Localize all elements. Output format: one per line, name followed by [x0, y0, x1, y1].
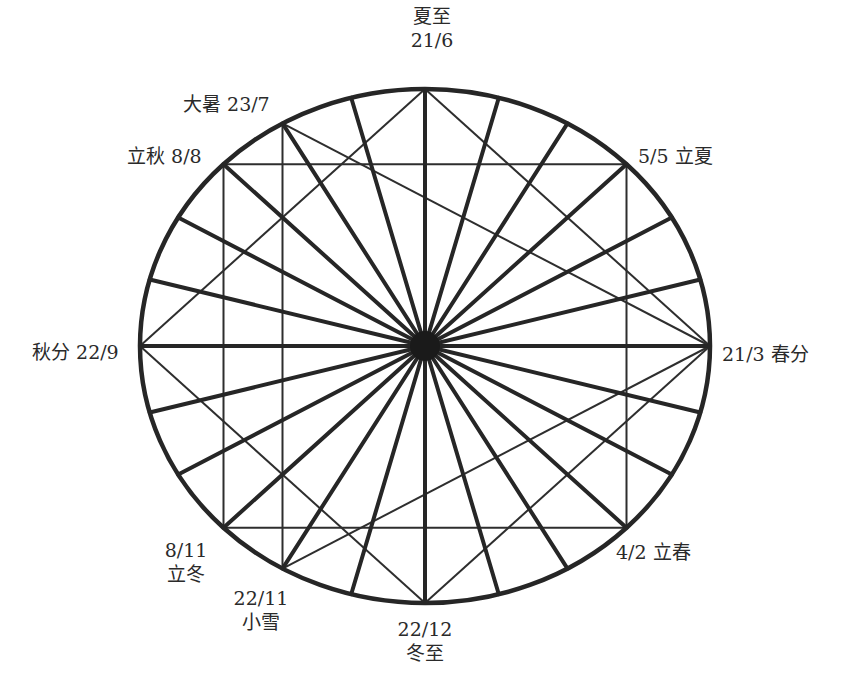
label-minor-snow: 22/11 小雪	[226, 586, 296, 634]
label-start-autumn: 立秋 8/8	[127, 144, 202, 168]
label-major-heat: 大暑 23/7	[183, 92, 270, 116]
radial-line	[425, 98, 499, 346]
winter-solstice-date: 22/12	[385, 617, 465, 641]
center-hub	[410, 331, 440, 361]
label-start-winter: 8/11 立冬	[156, 538, 216, 586]
radial-line	[351, 346, 425, 594]
solar-term-wheel	[0, 0, 843, 690]
minor-snow-name: 小雪	[226, 610, 296, 634]
radial-line	[351, 98, 425, 346]
radial-line	[425, 346, 499, 594]
minor-snow-date: 22/11	[226, 586, 296, 610]
summer-solstice-date: 21/6	[392, 28, 472, 52]
radial-line	[425, 280, 700, 347]
start-winter-date: 8/11	[156, 538, 216, 562]
label-start-summer: 5/5 立夏	[638, 144, 713, 168]
start-winter-name: 立冬	[156, 562, 216, 586]
label-spring-equinox: 21/3 春分	[722, 342, 809, 366]
radial-line	[150, 280, 425, 347]
label-start-spring: 4/2 立春	[616, 540, 691, 564]
label-winter-solstice: 22/12 冬至	[385, 617, 465, 665]
label-autumn-equinox: 秋分 22/9	[32, 340, 119, 364]
radial-line	[150, 346, 425, 413]
label-summer-solstice: 夏至 21/6	[392, 4, 472, 52]
winter-solstice-name: 冬至	[385, 641, 465, 665]
radial-line	[425, 346, 700, 413]
summer-solstice-name: 夏至	[392, 4, 472, 28]
